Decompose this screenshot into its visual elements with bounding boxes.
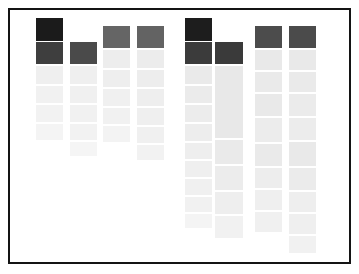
bar-segment <box>103 26 130 48</box>
bar-segment <box>255 144 282 166</box>
bar-segment <box>137 89 164 106</box>
bar-column <box>255 10 282 266</box>
plot-frame <box>8 8 351 264</box>
bar-segment <box>103 108 130 124</box>
bar-segment <box>70 124 97 140</box>
bar-segment <box>289 50 316 70</box>
bar-segment <box>215 216 243 238</box>
bar-segment <box>215 140 243 164</box>
bar-segment <box>215 166 243 190</box>
bar-column <box>215 10 243 266</box>
bar-segment <box>215 42 243 64</box>
bar-segment <box>137 127 164 143</box>
bar-segment <box>255 212 282 232</box>
bar-segment <box>137 145 164 160</box>
bar-segment <box>289 168 316 190</box>
bar-segment <box>255 26 282 48</box>
bar-segment <box>137 50 164 68</box>
bar-segment <box>103 126 130 142</box>
bar-segment <box>289 214 316 234</box>
bar-segment <box>289 142 316 166</box>
bar-segment <box>215 66 243 138</box>
bar-segment <box>289 26 316 48</box>
bar-segment <box>289 72 316 92</box>
bar-column <box>70 10 97 266</box>
bar-segment <box>137 70 164 87</box>
bar-segment <box>185 18 212 41</box>
bar-segment <box>255 72 282 92</box>
bar-column <box>137 10 164 266</box>
bar-segment <box>289 118 316 140</box>
bar-segment <box>70 86 97 103</box>
bar-segment <box>137 26 164 48</box>
bar-segment <box>215 192 243 214</box>
bar-segment <box>137 108 164 125</box>
bar-segment <box>255 168 282 188</box>
bar-segment <box>70 142 97 156</box>
bar-column <box>185 10 212 266</box>
bar-column <box>36 10 63 266</box>
bar-column <box>289 10 316 266</box>
bar-segment <box>103 50 130 68</box>
bar-segment <box>255 94 282 116</box>
bar-segment <box>289 94 316 116</box>
bar-segment <box>70 105 97 122</box>
bar-segment <box>255 50 282 70</box>
bar-segment <box>255 118 282 142</box>
bar-segment <box>103 70 130 87</box>
bar-segment <box>36 18 63 41</box>
bar-segment <box>103 89 130 106</box>
bar-segment <box>255 190 282 210</box>
bar-segment <box>289 192 316 212</box>
bar-segment <box>70 66 97 84</box>
bar-segment <box>70 42 97 64</box>
figure-root <box>0 0 359 274</box>
plot-area <box>10 10 353 266</box>
bar-segment <box>289 236 316 253</box>
bar-column <box>103 10 130 266</box>
